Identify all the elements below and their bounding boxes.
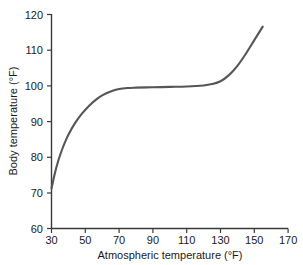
- y-axis-title: Body temperature (°F): [7, 67, 19, 176]
- y-tick-label-110: 110: [25, 44, 43, 56]
- chart-figure: 120 110 100 90 80 70 60 30 50 70 90 110 …: [0, 0, 303, 265]
- x-tick-label-110: 110: [178, 234, 196, 246]
- y-tick-label-80: 80: [31, 151, 43, 163]
- x-axis-title: Atmospheric temperature (°F): [98, 249, 243, 261]
- y-tick-label-100: 100: [25, 80, 43, 92]
- x-tick-label-90: 90: [147, 234, 159, 246]
- y-tick-label-90: 90: [31, 116, 43, 128]
- y-tick-label-70: 70: [31, 187, 43, 199]
- x-tick-label-130: 130: [211, 234, 229, 246]
- y-tick-label-120: 120: [25, 9, 43, 21]
- x-tick-label-150: 150: [245, 234, 263, 246]
- x-tick-label-30: 30: [45, 234, 57, 246]
- y-tick-label-60: 60: [31, 223, 43, 235]
- chart-plot-area: 120 110 100 90 80 70 60 30 50 70 90 110 …: [0, 0, 303, 265]
- x-tick-label-70: 70: [113, 234, 125, 246]
- body-temperature-curve: [52, 27, 263, 189]
- x-tick-label-50: 50: [79, 234, 91, 246]
- x-tick-label-170: 170: [279, 234, 297, 246]
